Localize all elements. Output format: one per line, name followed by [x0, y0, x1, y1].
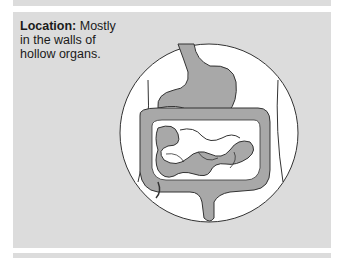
bottom-panel-band	[13, 253, 331, 258]
top-panel-band	[13, 0, 331, 6]
caption-label: Location:	[20, 19, 76, 33]
location-caption: Location: Mostly in the walls of hollow …	[20, 19, 120, 61]
digestive-organs-illustration	[118, 42, 300, 224]
